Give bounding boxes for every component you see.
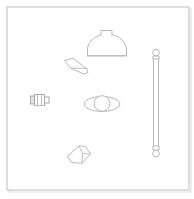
vertical-rod-object	[153, 49, 160, 157]
camera-rear-module	[45, 97, 50, 103]
rod-bottom-collar	[153, 146, 159, 150]
rod-bottom-ball-icon	[153, 150, 160, 157]
rod-top-ball-icon	[153, 49, 160, 56]
scene-root: Line art object scene Picture frame bord…	[0, 0, 194, 199]
camera-body	[35, 95, 45, 106]
center-sphere-shape	[94, 96, 110, 112]
lamp-neck-shape	[101, 31, 112, 37]
camera-lens-icon	[31, 96, 35, 104]
scene-canvas	[0, 0, 194, 199]
rod-shaft	[154, 59, 159, 147]
wedge-upper-crease	[71, 68, 87, 69]
wedge-lower-crease-2	[82, 154, 83, 164]
